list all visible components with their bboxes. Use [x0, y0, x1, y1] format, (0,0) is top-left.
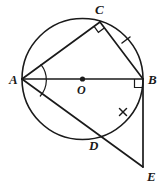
geometry-canvas: A B C D E O: [0, 0, 163, 185]
segment-AC: [22, 22, 100, 79]
center-point-O: [80, 76, 85, 81]
label-point-D: D: [88, 138, 99, 153]
geometry-figure-root: A B C D E O: [0, 0, 163, 185]
right-angle-mark-B: [135, 79, 144, 88]
label-point-E: E: [146, 169, 156, 184]
label-center-O: O: [77, 83, 86, 97]
right-angle-mark-C: [94, 26, 104, 32]
label-point-B: B: [147, 72, 157, 87]
label-point-A: A: [8, 72, 18, 87]
angle-arc-A: [40, 65, 46, 96]
label-point-C: C: [95, 2, 104, 17]
